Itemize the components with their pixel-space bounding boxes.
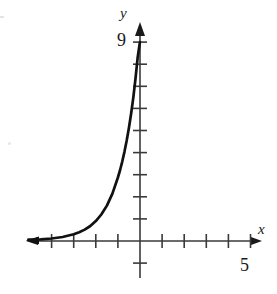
y-tick-label-9: 9 <box>117 31 126 49</box>
x-axis-right-arrow-icon <box>251 237 262 245</box>
scan-edge-mark <box>0 16 4 18</box>
scan-speck <box>8 142 11 145</box>
graph-canvas <box>0 0 277 294</box>
y-axis-label: y <box>120 6 127 21</box>
x-tick-label-5: 5 <box>240 256 249 274</box>
y-axis-top-arrow-icon <box>135 22 145 36</box>
x-axis-label: x <box>258 222 265 237</box>
exponential-graph-figure: y x 9 5 <box>0 0 277 294</box>
exponential-curve <box>28 42 139 240</box>
